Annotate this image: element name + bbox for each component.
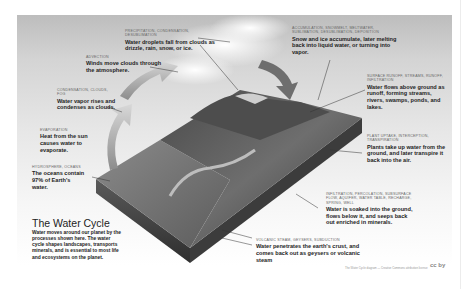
label-text: Water flows above ground as runoff, form… (367, 84, 449, 111)
label-caption: Hydrosphere, oceans (32, 165, 87, 169)
label-plant-uptake: Plant uptake, interception, transpiratio… (367, 134, 449, 164)
diagram-intro: Water moves around our planet by the pro… (32, 230, 122, 261)
label-evaporation: Evaporation Heat from the sun causes wat… (40, 128, 102, 153)
label-text: Water penetrates the earth's crust, and … (256, 243, 361, 263)
label-text: Plants take up water from the ground, an… (367, 144, 449, 164)
cloud (210, 14, 290, 42)
footer-credit: The Water Cycle diagram — Creative Commo… (345, 266, 427, 270)
label-caption: Precipitation, condensation, desublimati… (125, 29, 220, 38)
label-text: Winds move clouds through the atmosphere… (86, 60, 166, 73)
label-accumulation: Accumulation, snowmelt, meltwater, subli… (292, 26, 400, 56)
label-text: Water vapor rises and condenses as cloud… (57, 98, 117, 111)
label-volcanic: Volcanic steam, geysers, subduction Wate… (256, 238, 361, 263)
label-text: Water droplets fall from clouds as drizz… (125, 39, 220, 52)
label-advection: Advection Winds move clouds through the … (86, 55, 166, 74)
label-caption: Infiltration, percolation, subsurface fl… (326, 192, 414, 205)
label-caption: Condensation, clouds, fog (57, 88, 117, 97)
label-caption: Surface runoff, streams, runoff, infiltr… (367, 74, 449, 83)
label-caption: Plant uptake, interception, transpiratio… (367, 134, 449, 143)
label-surface-runoff: Surface runoff, streams, runoff, infiltr… (367, 74, 449, 110)
label-precipitation: Precipitation, condensation, desublimati… (125, 29, 220, 52)
cc-license-icon: cc by (430, 262, 445, 268)
label-caption: Evaporation (40, 128, 102, 132)
label-text: Water is soaked into the ground, flows b… (326, 206, 414, 226)
label-caption: Accumulation, snowmelt, meltwater, subli… (292, 26, 400, 35)
label-caption: Volcanic steam, geysers, subduction (256, 238, 361, 242)
diagram-title: The Water Cycle (32, 217, 110, 229)
label-oceans: Hydrosphere, oceans The oceans contain 9… (32, 165, 87, 190)
label-condensation: Condensation, clouds, fog Water vapor ri… (57, 88, 117, 111)
label-text: Snow and ice accumulate, later melting b… (292, 36, 400, 56)
label-infiltration: Infiltration, percolation, subsurface fl… (326, 192, 414, 226)
water-cycle-diagram: Precipitation, condensation, desublimati… (0, 0, 470, 289)
label-text: The oceans contain 97% of Earth's water. (32, 170, 87, 190)
label-text: Heat from the sun causes water to evapor… (40, 133, 102, 153)
label-caption: Advection (86, 55, 166, 59)
precipitation-arrow (258, 60, 298, 100)
